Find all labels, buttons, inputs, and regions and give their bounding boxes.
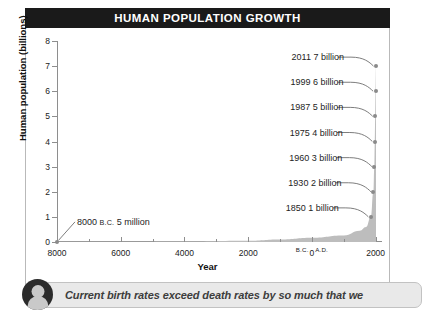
figure-title: HUMAN POPULATION GROWTH	[114, 12, 300, 24]
y-tick-label: 0	[45, 237, 50, 247]
y-tick-label: 7	[45, 61, 50, 71]
x-tick-label: 0	[310, 248, 315, 258]
y-tick-label: 1	[45, 212, 50, 222]
avatar-body	[27, 296, 48, 310]
annotation-1850: 1850 1 billion	[286, 203, 339, 213]
y-tick-label: 8	[45, 36, 50, 46]
caption-strip: Current birth rates exceed death rates b…	[22, 279, 417, 309]
caption-box: Current birth rates exceed death rates b…	[40, 282, 422, 308]
annotation-1999: 1999 6 billion	[291, 77, 344, 87]
annotation-2011: 2011 7 billion	[292, 52, 344, 62]
y-tick-label: 3	[45, 162, 50, 172]
x-tick-label: 4000	[175, 248, 194, 258]
annotation-1960: 1960 3 billion	[289, 153, 342, 163]
x-axis-title: Year	[25, 261, 390, 272]
y-tick-label: 2	[45, 187, 50, 197]
annotation-1975: 1975 4 billion	[290, 128, 343, 138]
person-avatar-icon	[22, 279, 53, 310]
annotation-1930: 1930 2 billion	[288, 178, 341, 188]
y-axis-title: Human population (billions)	[17, 15, 28, 141]
x-tick-label: 6000	[111, 248, 130, 258]
annotation-origin: 8000 B.C. 5 million	[77, 217, 150, 227]
figure-title-bar: HUMAN POPULATION GROWTH	[25, 8, 390, 28]
x-tick-label: 8000	[48, 248, 67, 258]
ad-era-label: A.D.	[315, 246, 328, 253]
annotation-1987: 1987 5 billion	[290, 102, 343, 112]
caption-text: Current birth rates exceed death rates b…	[65, 289, 363, 301]
y-tick-label: 6	[45, 86, 50, 96]
y-tick-label: 5	[45, 111, 50, 121]
y-tick-label: 4	[45, 137, 50, 147]
bc-era-label: B.C.	[296, 246, 309, 253]
x-tick-label: 2000	[239, 248, 258, 258]
x-tick-label: 2000	[366, 248, 385, 258]
